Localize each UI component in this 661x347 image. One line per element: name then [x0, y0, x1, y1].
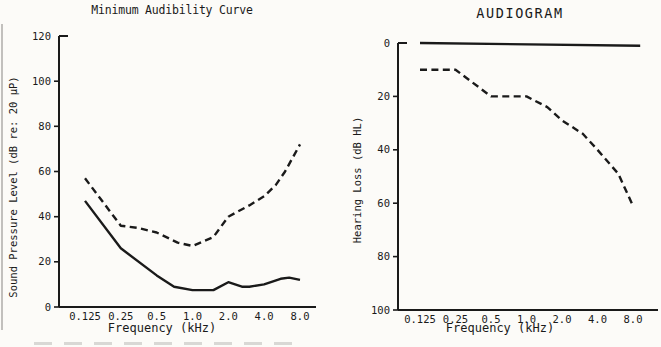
- minimum-audibility-curve-x-tick-label: 0.125: [69, 310, 101, 322]
- patient-hearing-loss-curve: [420, 70, 633, 206]
- minimum-audibility-curve-y-tick-label: 0: [45, 301, 51, 313]
- two-panel-figure: 0204060801001200.1250.250.51.02.04.08.00…: [0, 0, 661, 347]
- audiogram-x-tick-label: 0.125: [404, 313, 436, 325]
- minimum-audibility-curve-y-axis: [59, 36, 68, 307]
- frequency-axis-label-left: Frequency (kHz): [108, 321, 216, 335]
- audiogram-x-tick-label: 4.0: [588, 313, 607, 325]
- frequency-axis-label-right: Frequency (kHz): [446, 321, 554, 335]
- audiogram-y-tick-label: 100: [371, 304, 390, 316]
- audiogram-y-tick-label: 60: [377, 197, 390, 209]
- audiogram-x-tick-label: 2.0: [553, 313, 572, 325]
- impaired-hearing-threshold-curve: [85, 144, 300, 246]
- minimum-audibility-curve-x-tick-label: 4.0: [255, 310, 274, 322]
- audiogram-x-tick-label: 8.0: [624, 313, 643, 325]
- minimum-audibility-curve-y-tick-label: 120: [32, 30, 51, 42]
- audiogram-y-tick-label: 40: [377, 143, 390, 155]
- caption-remnant-artifact: [34, 342, 294, 345]
- minimum-audibility-curve-y-tick-label: 40: [38, 210, 51, 222]
- minimum-audibility-curve-x-tick-label: 2.0: [219, 310, 238, 322]
- hearing-loss-axis-label: Hearing Loss (dB HL): [351, 117, 363, 243]
- minimum-audibility-curve-y-tick-label: 80: [38, 120, 51, 132]
- minimum-audibility-curve-y-tick-label: 100: [32, 75, 51, 87]
- minimum-audibility-curve-x-tick-label: 8.0: [291, 310, 310, 322]
- audiogram-y-tick-label: 80: [377, 250, 390, 262]
- minimum-audibility-curve-y-tick-label: 20: [38, 255, 51, 267]
- scan-edge-artifact: [1, 24, 3, 330]
- spl-axis-label: Sound Pressure Level (dB re: 20 µP): [7, 76, 19, 297]
- minimum-audibility-curve-y-tick-label: 60: [38, 165, 51, 177]
- charts-canvas: 0204060801001200.1250.250.51.02.04.08.00…: [0, 0, 661, 347]
- normal-reference-level-curve: [420, 43, 640, 46]
- audiogram-y-tick-label: 20: [377, 90, 390, 102]
- right-chart-title: AUDIOGRAM: [476, 5, 564, 21]
- normal-hearing-threshold-curve: [85, 201, 300, 290]
- audiogram-y-axis: [398, 43, 407, 310]
- audiogram-y-tick-label: 0: [384, 37, 390, 49]
- left-chart-title: Minimum Audibility Curve: [91, 3, 252, 17]
